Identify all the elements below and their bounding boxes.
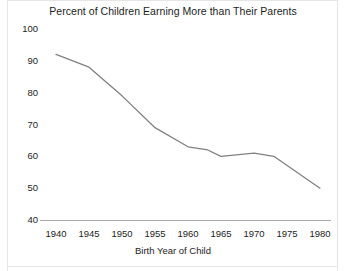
y-axis-tick-60: 60	[12, 151, 38, 161]
y-axis-tick-labels: 100908070605040	[8, 0, 38, 271]
chart-figure: Percent of Children Earning More than Th…	[0, 0, 346, 271]
data-line-series	[40, 25, 330, 220]
y-axis-tick-50: 50	[12, 183, 38, 193]
y-axis-tick-90: 90	[12, 56, 38, 66]
chart-title: Percent of Children Earning More than Th…	[0, 5, 346, 17]
page-frame-top-edge	[7, 0, 338, 1]
y-axis-tick-40: 40	[12, 215, 38, 225]
data-polyline	[56, 54, 320, 188]
x-axis-title: Birth Year of Child	[0, 245, 346, 256]
plot-area	[40, 25, 330, 220]
y-axis-tick-80: 80	[12, 88, 38, 98]
page-frame-bottom-edge	[7, 266, 338, 267]
x-axis-tick-1980: 1980	[300, 228, 340, 239]
x-axis-line	[40, 220, 331, 221]
y-axis-tick-100: 100	[12, 24, 38, 34]
y-axis-tick-70: 70	[12, 120, 38, 130]
